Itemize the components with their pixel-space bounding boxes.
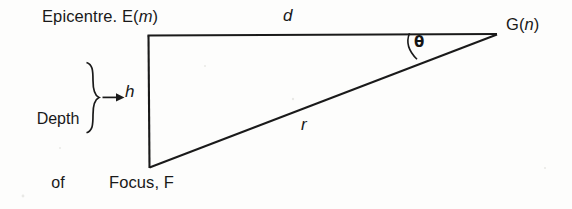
side-r-line (150, 35, 498, 168)
label-epicentre: Epicentre. E(m) (42, 8, 158, 25)
label-epicentre-variable: m (139, 7, 153, 25)
label-station-variable: n (525, 15, 534, 33)
label-side-h: h (125, 82, 134, 102)
label-focus: Focus, F (109, 174, 174, 191)
label-station-suffix: ) (534, 15, 540, 33)
label-angle-theta: θ (414, 33, 424, 51)
depth-arrow-head (116, 93, 125, 101)
label-depth-line-1: Depth (21, 108, 95, 129)
label-depth-of-focus: Depth of focus (21, 66, 95, 209)
scan-speckles (22, 65, 547, 197)
figure-canvas: Epicentre. E(m) Focus, F G(n) d r h θ De… (0, 0, 572, 209)
label-epicentre-prefix: Epicentre. E( (42, 7, 139, 25)
label-depth-line-2: of (21, 172, 95, 193)
side-h-line (149, 36, 150, 169)
label-side-d: d (283, 6, 292, 26)
label-side-r: r (301, 115, 307, 135)
label-station-prefix: G( (506, 15, 525, 33)
label-epicentre-suffix: ) (153, 7, 159, 25)
side-d-line (148, 34, 498, 36)
label-station: G(n) (506, 16, 539, 33)
